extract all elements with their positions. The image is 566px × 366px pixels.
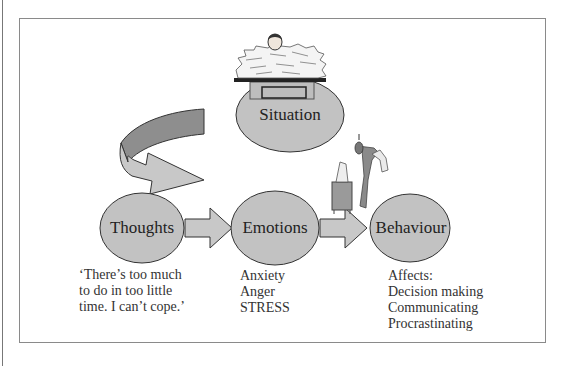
desk-illustration: [234, 34, 326, 99]
arrow-emotions-to-behaviour: [320, 208, 367, 248]
situation-node: [234, 34, 344, 152]
behaviour-label: Behaviour: [366, 218, 456, 238]
arrow-thoughts-to-emotions: [185, 208, 232, 248]
emotions-caption: Anxiety Anger STRESS: [240, 268, 290, 316]
situation-label: Situation: [236, 105, 344, 125]
curved-return-arrow: [120, 109, 204, 194]
behaviour-caption: Affects: Decision making Communicating P…: [388, 268, 483, 332]
emotions-label: Emotions: [231, 218, 319, 238]
angry-man-illustration: [332, 134, 388, 214]
thoughts-caption: ‘There’s too much to do in too little ti…: [79, 267, 185, 315]
thoughts-label: Thoughts: [100, 218, 184, 238]
